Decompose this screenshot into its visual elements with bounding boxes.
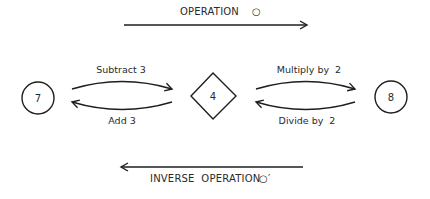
inverse-operation-arrow: INVERSE OPERATION ○′ (121, 167, 303, 184)
inverse-operation-symbol: ○′ (259, 173, 271, 184)
curved-arrow-backward (256, 102, 355, 110)
transition-add: Add 3 (72, 102, 172, 126)
transition-label: Multiply by 2 (277, 64, 341, 75)
node-middle: 4 (191, 73, 236, 119)
curved-arrow-backward (72, 102, 172, 110)
transition-label: Subtract 3 (96, 64, 146, 75)
transition-multiply: Multiply by 2 (256, 64, 355, 89)
transition-divide: Divide by 2 (256, 102, 355, 126)
transition-subtract: Subtract 3 (72, 64, 172, 89)
node-value: 7 (35, 93, 41, 104)
operation-label: OPERATION (180, 6, 239, 17)
node-value: 4 (210, 91, 216, 102)
node-right: 8 (375, 81, 407, 113)
transition-label: Divide by 2 (279, 115, 336, 126)
curved-arrow-forward (72, 82, 172, 90)
inverse-operation-label: INVERSE OPERATION (150, 173, 260, 184)
curved-arrow-forward (256, 82, 355, 90)
operation-symbol: ○ (252, 6, 261, 17)
node-left: 7 (22, 82, 54, 114)
operation-diagram: OPERATION ○ INVERSE OPERATION ○′ 7 4 8 S… (0, 0, 430, 199)
transition-label: Add 3 (108, 115, 135, 126)
node-value: 8 (388, 92, 394, 103)
operation-arrow: OPERATION ○ (124, 6, 307, 25)
